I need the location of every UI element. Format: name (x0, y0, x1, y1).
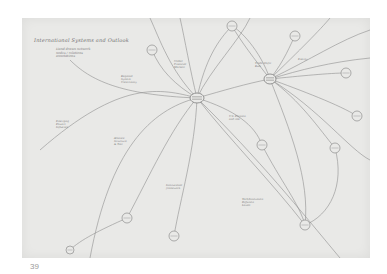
node-label: Alliance Structure & Ties (114, 137, 127, 146)
edge-line (180, 18, 197, 98)
edge-line (90, 98, 197, 258)
edge-line (197, 18, 250, 98)
edge-line (270, 79, 335, 148)
edge-line (197, 79, 270, 98)
edge-line (174, 98, 197, 236)
edge-line (305, 148, 338, 225)
edge-line (262, 145, 305, 225)
edge-line (270, 73, 346, 79)
node-label: Tech/Innovation Diffusion Levels (242, 198, 263, 207)
edge-line (270, 18, 330, 79)
edge-line (232, 26, 270, 79)
node-label: Regional System Uncertainty (121, 75, 137, 84)
diagram-subtitle: Hand drawn network nodes / relations ann… (56, 48, 90, 59)
node-label: Energy (298, 58, 307, 61)
edge-line (150, 18, 197, 98)
node-label: Institutional framework (166, 184, 182, 190)
edge-line (270, 79, 357, 116)
node-label: Global Financial Markets (174, 60, 186, 69)
subtitle-line: annotations (56, 55, 90, 59)
edge-line (270, 58, 370, 79)
node-label: U.S. Position and role (229, 115, 246, 121)
edge-line (197, 98, 262, 145)
edge-line (232, 26, 270, 79)
edge-line (70, 218, 127, 250)
node-label: Trade Shifts Rule (255, 62, 271, 68)
node-label: Emerging Powers Influence (56, 120, 69, 129)
edge-line (127, 98, 197, 218)
edge-line (197, 26, 232, 98)
page-number: 39 (30, 262, 39, 271)
edge-line (197, 98, 340, 258)
edge-line (270, 30, 370, 79)
diagram-title: International Systems and Outlook (34, 37, 129, 43)
